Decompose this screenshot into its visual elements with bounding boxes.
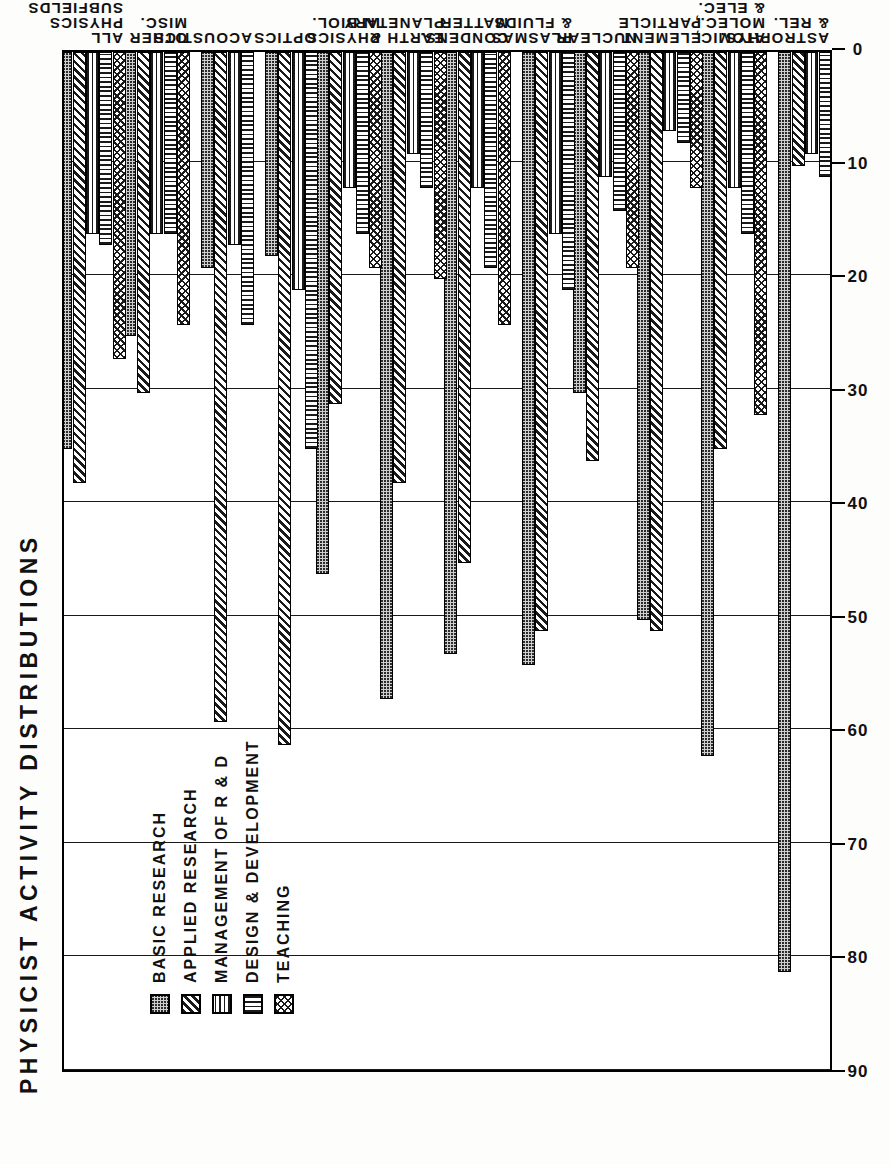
axis-tick-label: 70 — [848, 835, 869, 855]
bar — [113, 52, 126, 359]
bar — [613, 52, 626, 211]
bar-group — [449, 52, 513, 1070]
legend-item: BASIC RESEARCH — [150, 739, 170, 1014]
bar — [599, 52, 612, 177]
bar — [64, 52, 72, 449]
axis-tick-label: 80 — [848, 948, 869, 968]
axis-tick — [832, 275, 845, 277]
bar — [150, 52, 163, 234]
category-label: NUCLEAR — [572, 31, 636, 46]
axis-tick-label: 90 — [848, 1062, 869, 1082]
bar-group — [642, 52, 706, 1070]
category-label: ALL PHYSICS SUBFIELDS — [59, 1, 123, 46]
category-labels: ASTROPHYS. & REL.ATOMIC, MOLEC., & ELEC.… — [62, 0, 832, 46]
bar — [741, 52, 754, 234]
bar — [754, 52, 767, 415]
legend-swatch-teaching-icon — [274, 994, 294, 1014]
category-label: EARTH & PLANETARY — [380, 16, 444, 46]
axis-tick — [832, 843, 845, 845]
bar — [137, 52, 150, 393]
bar — [292, 52, 305, 290]
bar — [522, 52, 535, 665]
category-label: ACOUSTICS — [187, 31, 251, 46]
axis-tick-marks — [832, 50, 848, 1072]
bar — [164, 52, 177, 234]
bar — [86, 52, 99, 234]
category-label: ASTROPHYS. & REL. — [765, 16, 829, 46]
bar — [677, 52, 690, 143]
bar — [471, 52, 484, 188]
axis-tick — [832, 162, 845, 164]
bar — [792, 52, 805, 166]
bar — [434, 52, 447, 279]
bar-group — [321, 52, 385, 1070]
bar-group — [706, 52, 770, 1070]
bar — [714, 52, 727, 449]
axis-tick-label: 10 — [848, 154, 869, 174]
bar-group — [64, 52, 128, 1070]
bar — [369, 52, 382, 268]
axis-tick-label: 30 — [848, 381, 869, 401]
legend-item: MANAGEMENT OF R & D — [212, 739, 232, 1014]
bar — [201, 52, 214, 268]
category-label: ATOMIC, MOLEC., & ELEC. — [701, 1, 765, 46]
bar-group — [770, 52, 830, 1070]
bar-group — [385, 52, 449, 1070]
bar — [805, 52, 818, 154]
axis-tick — [832, 48, 845, 50]
bar — [393, 52, 406, 484]
axis-tick-label: 60 — [848, 721, 869, 741]
bar — [650, 52, 663, 631]
legend-label: MANAGEMENT OF R & D — [213, 754, 231, 983]
legend-item: APPLIED RESEARCH — [181, 739, 201, 1014]
legend-label: BASIC RESEARCH — [151, 811, 169, 983]
bar — [177, 52, 190, 325]
bar — [73, 52, 86, 484]
bar — [420, 52, 433, 188]
bar — [343, 52, 356, 188]
legend-item: TEACHING — [274, 739, 294, 1014]
axis-tick-labels: 0102030405060708090 — [848, 50, 888, 1164]
legend-item: DESIGN & DEVELOPMENT — [243, 739, 263, 1014]
legend-swatch-applied-icon — [181, 994, 201, 1014]
legend-label: TEACHING — [275, 883, 293, 983]
legend-swatch-mgmt-icon — [212, 994, 232, 1014]
bar — [214, 52, 227, 722]
axis-tick-label: 20 — [848, 267, 869, 287]
legend-label: DESIGN & DEVELOPMENT — [244, 739, 262, 983]
bar — [458, 52, 471, 563]
category-label: PHYSICS IN BIOL. — [316, 16, 380, 46]
axis-tick — [832, 1070, 845, 1072]
bar — [329, 52, 342, 404]
axis-tick — [832, 389, 845, 391]
category-label: OTHER MISC. — [123, 16, 187, 46]
bar — [819, 52, 830, 177]
category-label: ELEMENT. PARTICLE — [637, 16, 701, 46]
category-label: OPTICS — [252, 31, 316, 46]
bar — [99, 52, 112, 245]
legend-swatch-design-icon — [243, 994, 263, 1014]
category-label: PLASMAS & FLUIDS — [508, 16, 572, 46]
bar — [728, 52, 741, 188]
axis-tick — [832, 616, 845, 618]
bar — [305, 52, 318, 449]
bar — [278, 52, 291, 745]
legend-label: APPLIED RESEARCH — [182, 787, 200, 983]
axis-tick-label: 0 — [853, 40, 863, 60]
axis-tick-label: 50 — [848, 608, 869, 628]
bar — [626, 52, 639, 268]
bar — [562, 52, 575, 290]
axis-tick — [832, 956, 845, 958]
axis-tick — [832, 729, 845, 731]
bar — [407, 52, 420, 154]
bar — [265, 52, 278, 256]
category-label: CONDENS. MATTER — [444, 16, 508, 46]
page-title: PHYSICIST ACTIVITY DISTRIBUTIONS — [16, 533, 43, 1094]
bar — [690, 52, 703, 188]
bar — [586, 52, 599, 461]
bar — [663, 52, 676, 131]
bar — [778, 52, 791, 972]
figure-page: PHYSICIST ACTIVITY DISTRIBUTIONS 0102030… — [0, 0, 890, 1164]
bar — [241, 52, 254, 325]
axis-tick — [832, 502, 845, 504]
